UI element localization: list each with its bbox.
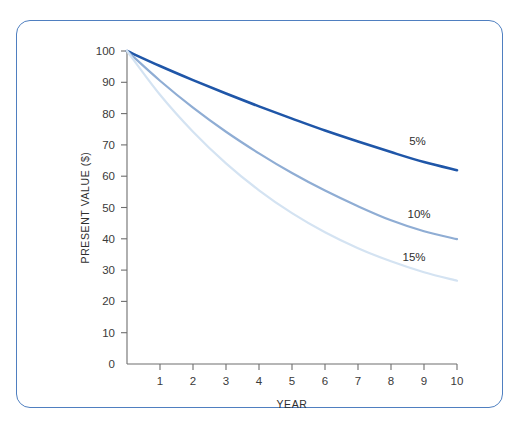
x-tick-label: 7 xyxy=(355,375,361,387)
present-value-line-chart: 0102030405060708090100 12345678910 5%10%… xyxy=(17,21,504,409)
y-tick-label: 30 xyxy=(102,264,115,276)
x-tick-label: 6 xyxy=(322,375,328,387)
y-axis-ticks: 0102030405060708090100 xyxy=(96,45,127,370)
y-tick-label: 10 xyxy=(102,327,115,339)
data-curve-5pct xyxy=(127,51,457,170)
figure-panel: 0102030405060708090100 12345678910 5%10%… xyxy=(16,20,503,408)
y-tick-label: 50 xyxy=(102,202,115,214)
x-tick-label: 5 xyxy=(289,375,295,387)
x-tick-label: 4 xyxy=(256,375,263,387)
x-tick-label: 8 xyxy=(388,375,394,387)
x-tick-label: 3 xyxy=(223,375,229,387)
y-tick-label: 80 xyxy=(102,108,115,120)
series-label-15pct: 15% xyxy=(403,251,426,263)
y-tick-label: 20 xyxy=(102,295,115,307)
y-tick-label: 90 xyxy=(102,76,115,88)
y-tick-label: 100 xyxy=(96,45,115,57)
series-label-10pct: 10% xyxy=(408,208,431,220)
x-tick-label: 10 xyxy=(451,375,464,387)
y-tick-label: 60 xyxy=(102,170,115,182)
x-axis-ticks: 12345678910 xyxy=(157,364,464,387)
series-labels: 5%10%15% xyxy=(403,135,431,263)
chart-svg: 0102030405060708090100 12345678910 5%10%… xyxy=(17,21,504,409)
x-tick-label: 2 xyxy=(190,375,196,387)
y-axis-title: PRESENT VALUE ($) xyxy=(79,152,91,264)
x-tick-label: 1 xyxy=(157,375,163,387)
x-tick-label: 9 xyxy=(421,375,427,387)
y-tick-label: 0 xyxy=(109,358,115,370)
x-axis-title: YEAR xyxy=(277,398,308,409)
data-curve-15pct xyxy=(127,51,457,281)
y-tick-label: 70 xyxy=(102,139,115,151)
y-tick-label: 40 xyxy=(102,233,115,245)
series-label-5pct: 5% xyxy=(409,135,426,147)
data-series-curves xyxy=(127,51,457,281)
